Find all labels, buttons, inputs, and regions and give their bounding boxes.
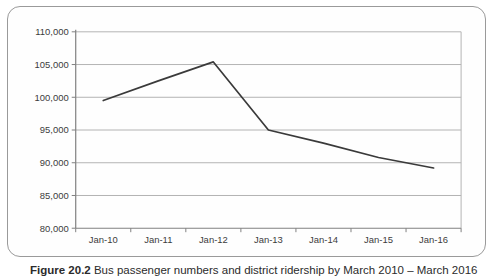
figure-caption: Figure 20.2 Bus passenger numbers and di… (30, 264, 490, 276)
x-tick-label: Jan-15 (364, 234, 393, 245)
data-line-series (103, 62, 433, 168)
figure-caption-text: Bus passenger numbers and district rider… (91, 264, 478, 276)
x-tick-label: Jan-12 (199, 234, 228, 245)
x-tick-label: Jan-13 (254, 234, 283, 245)
figure-page: 80,00085,00090,00095,000100,000105,00011… (0, 0, 498, 277)
x-tick-label: Jan-10 (89, 234, 118, 245)
y-tick-label: 85,000 (40, 190, 69, 201)
chart-frame: 80,00085,00090,00095,000100,000105,00011… (7, 6, 486, 257)
y-tick-label: 110,000 (35, 26, 68, 37)
y-tick-label: 95,000 (40, 124, 69, 135)
y-tick-label: 100,000 (35, 92, 69, 103)
y-tick-label: 80,000 (40, 223, 69, 234)
figure-caption-label: Figure 20.2 (30, 264, 91, 276)
x-tick-label: Jan-14 (309, 234, 338, 245)
y-tick-label: 105,000 (35, 59, 69, 70)
line-chart: 80,00085,00090,00095,000100,000105,00011… (8, 7, 485, 256)
x-tick-label: Jan-11 (144, 234, 172, 245)
y-tick-label: 90,000 (40, 157, 69, 168)
x-tick-label: Jan-16 (419, 234, 448, 245)
